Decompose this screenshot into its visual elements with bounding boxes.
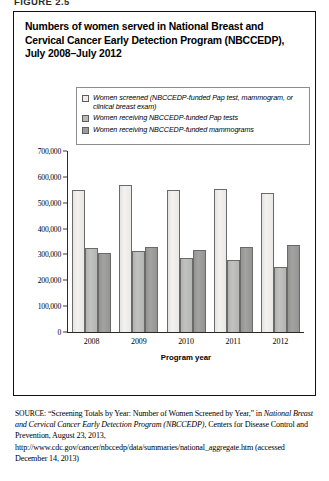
x-axis-title: Program year <box>68 353 304 362</box>
source-text-part-1: “Screening Totals by Year: Number of Wom… <box>46 409 264 418</box>
y-axis-tick-label: 0 <box>57 328 61 337</box>
bar[interactable] <box>240 247 253 332</box>
bar[interactable] <box>119 185 132 332</box>
chart-legend: Women screened (NBCCEDP-funded Pap test,… <box>76 87 310 145</box>
y-axis-tick-label: 600,000 <box>38 172 61 181</box>
y-axis-tick-mark <box>63 151 67 152</box>
figure-number-label: FIGURE 2.5 <box>14 0 70 6</box>
y-axis-tick-label: 200,000 <box>38 276 61 285</box>
y-axis-tick-mark <box>63 306 67 307</box>
figure-box: Numbers of women served in National Brea… <box>13 11 316 396</box>
bar-group-2009 <box>115 151 162 332</box>
bar[interactable] <box>180 258 193 332</box>
y-axis-tick-mark <box>63 202 67 203</box>
bar-group-2011 <box>210 151 257 332</box>
bar[interactable] <box>98 253 111 332</box>
chart-plot-area: 700,000600,000500,000400,000300,000200,0… <box>14 151 317 397</box>
bar-group-2008 <box>68 151 115 332</box>
y-axis-tick-label: 500,000 <box>38 198 61 207</box>
source-note: SOURCE: “Screening Totals by Year: Numbe… <box>15 408 317 464</box>
bar[interactable] <box>193 250 206 332</box>
legend-item-mammograms: Women receiving NBCCEDP-funded mammogram… <box>77 125 309 134</box>
y-axis-tick-mark <box>63 228 67 229</box>
y-axis-labels: 700,000600,000500,000400,000300,000200,0… <box>14 151 63 351</box>
x-axis-tick-label: 2010 <box>162 337 209 346</box>
legend-item-label: Women receiving NBCCEDP-funded Pap tests <box>93 113 299 122</box>
bar-group-2010 <box>162 151 209 332</box>
y-axis-tick-label: 400,000 <box>38 224 61 233</box>
bar[interactable] <box>227 260 240 332</box>
bar[interactable] <box>287 245 300 332</box>
legend-swatch-icon <box>82 95 89 102</box>
y-axis-tick-mark <box>63 176 67 177</box>
x-axis-tick-label: 2012 <box>257 337 304 346</box>
bar[interactable] <box>274 267 287 332</box>
bar[interactable] <box>85 248 98 332</box>
legend-swatch-icon <box>82 115 89 122</box>
legend-item-screened: Women screened (NBCCEDP-funded Pap test,… <box>77 93 309 111</box>
y-axis-tick-label: 100,000 <box>38 302 61 311</box>
bar[interactable] <box>214 189 227 333</box>
y-axis-tick-mark <box>63 254 67 255</box>
bar[interactable] <box>145 247 158 332</box>
figure-page: FIGURE 2.5 Numbers of women served in Na… <box>0 0 329 481</box>
y-axis-tick-label: 700,000 <box>38 147 61 156</box>
bar-group-2012 <box>257 151 304 332</box>
x-axis-labels: 20082009201020112012 <box>68 337 304 346</box>
y-axis-tick-mark <box>63 280 67 281</box>
x-axis-tick-label: 2009 <box>115 337 162 346</box>
bar[interactable] <box>72 190 85 332</box>
legend-item-label: Women screened (NBCCEDP-funded Pap test,… <box>93 93 299 111</box>
figure-title: Numbers of women served in National Brea… <box>25 20 305 61</box>
x-axis-tick-label: 2008 <box>68 337 115 346</box>
y-axis-tick-label: 300,000 <box>38 250 61 259</box>
bar[interactable] <box>132 251 145 332</box>
legend-swatch-icon <box>82 127 89 134</box>
x-axis-tick-label: 2011 <box>210 337 257 346</box>
legend-item-pap-tests: Women receiving NBCCEDP-funded Pap tests <box>77 113 309 122</box>
bar[interactable] <box>261 193 274 332</box>
bar[interactable] <box>167 190 180 332</box>
source-prefix: SOURCE: <box>15 409 46 418</box>
legend-item-label: Women receiving NBCCEDP-funded mammogram… <box>93 125 299 134</box>
x-axis-line <box>67 332 304 333</box>
y-axis-tick-mark <box>63 332 67 333</box>
bar-groups <box>68 151 304 332</box>
